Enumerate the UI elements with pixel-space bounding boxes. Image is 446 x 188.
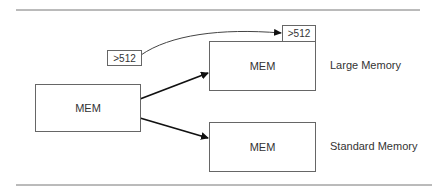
- large-box-tag: >512: [282, 25, 316, 42]
- arrow-to-standard: [140, 118, 208, 138]
- standard-memory-caption: Standard Memory: [330, 140, 417, 152]
- threshold-tag: >512: [107, 50, 142, 66]
- large-memory-caption: Large Memory: [330, 59, 401, 71]
- large-mem-box: MEM: [209, 41, 316, 91]
- standard-mem-box: MEM: [209, 122, 316, 172]
- source-mem-box: MEM: [35, 84, 141, 132]
- arrow-to-large: [140, 73, 208, 99]
